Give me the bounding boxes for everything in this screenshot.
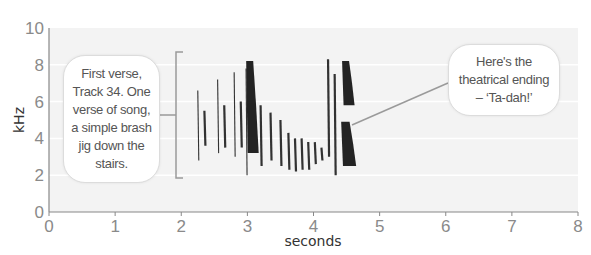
- y-tick-8: 8: [35, 56, 44, 75]
- x-tick-3: 3: [243, 217, 252, 236]
- x-tick-0: 0: [44, 217, 53, 236]
- y-tick-0: 0: [35, 203, 44, 222]
- x-tick-7: 7: [507, 217, 516, 236]
- callout-first-verse: First verse, Track 34. One verse of song…: [63, 55, 160, 183]
- y-tick-2: 2: [35, 166, 44, 185]
- x-axis-title: seconds: [284, 233, 341, 249]
- x-tick-1: 1: [110, 217, 119, 236]
- y-axis-title: kHz: [11, 107, 27, 133]
- x-tick-8: 8: [573, 217, 582, 236]
- x-tick-5: 5: [375, 217, 384, 236]
- x-tick-6: 6: [441, 217, 450, 236]
- y-tick-6: 6: [35, 93, 44, 112]
- callout-theatrical-ending: Here's the theatrical ending – ‘Ta-dah!’: [448, 44, 560, 116]
- y-tick-labels: 0246810: [25, 19, 44, 222]
- callout-first-verse-text: First verse, Track 34. One verse of song…: [71, 65, 151, 173]
- callout-theatrical-ending-text: Here's the theatrical ending – ‘Ta-dah!’: [459, 53, 549, 107]
- y-tick-10: 10: [25, 19, 44, 38]
- y-tick-4: 4: [35, 129, 44, 148]
- x-tick-2: 2: [177, 217, 186, 236]
